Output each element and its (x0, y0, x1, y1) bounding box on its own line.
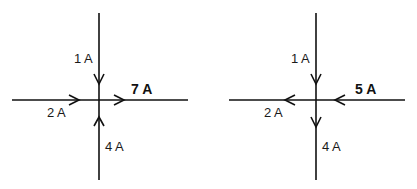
branch-label-right: 5 A (355, 81, 376, 97)
branch-label-bottom: 4 A (105, 139, 124, 154)
branch-label-left: 2 A (264, 105, 283, 120)
branch-label-top: 1 A (291, 51, 310, 66)
branch-label-left: 2 A (47, 105, 66, 120)
branch-label-bottom: 4 A (322, 139, 341, 154)
right-junction: 1 A 2 A 5 A 4 A (229, 13, 405, 180)
junction-diagrams: 1 A 2 A 7 A 4 A 1 A 2 A 5 A 4 A (0, 0, 417, 189)
branch-label-right: 7 A (131, 81, 152, 97)
left-junction: 1 A 2 A 7 A 4 A (12, 13, 188, 180)
branch-label-top: 1 A (74, 51, 93, 66)
